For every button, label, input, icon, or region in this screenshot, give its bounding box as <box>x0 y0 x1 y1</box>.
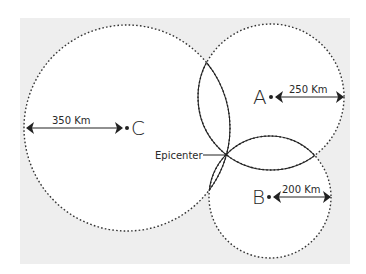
station-label-a: A <box>253 85 267 109</box>
station-dot-c <box>125 126 129 130</box>
station-label-c: C <box>131 116 145 140</box>
distance-label-b: 200 Km <box>282 184 321 195</box>
triangulation-diagram: 350 Km C 250 Km A 200 Km B Epicenter <box>0 0 366 274</box>
station-label-b: B <box>252 185 265 209</box>
epicenter-label: Epicenter <box>155 150 204 161</box>
distance-label-c: 350 Km <box>52 115 91 126</box>
station-dot-a <box>269 95 273 99</box>
distance-label-a: 250 Km <box>289 84 328 95</box>
station-dot-b <box>267 195 271 199</box>
